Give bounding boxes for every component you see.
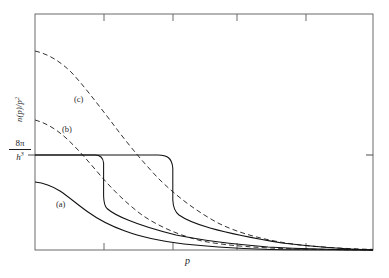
y-axis-label-slash: /	[14, 104, 24, 107]
curve-b-label: (b)	[62, 124, 72, 134]
curve-a-label: (a)	[56, 199, 65, 209]
x-axis-label: p	[185, 255, 190, 266]
plateau-label-denominator: h3	[8, 151, 32, 162]
y-axis-label-numerator: n(p)	[14, 107, 24, 122]
curve-c-label: (c)	[74, 94, 83, 104]
plot-canvas	[0, 0, 389, 278]
y-axis-plateau-tick-label: 8π h3	[8, 139, 32, 163]
y-axis-label-exponent: 2	[14, 97, 20, 100]
fraction-bar	[9, 149, 31, 150]
momentum-distribution-figure: n(p)/p2 8π h3 p (a) (b) (c)	[0, 0, 389, 278]
plateau-label-numerator: 8π	[8, 139, 32, 149]
plateau-label-exponent: 3	[21, 151, 24, 157]
y-axis-label-denominator: p	[14, 100, 24, 104]
